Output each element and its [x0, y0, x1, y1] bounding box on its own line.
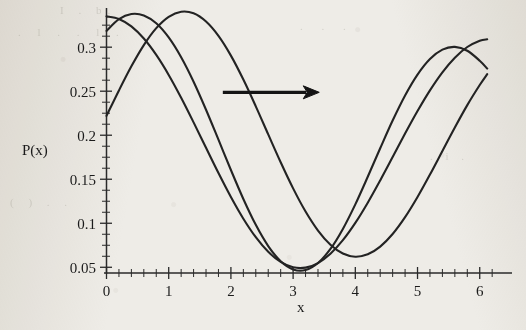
x-tick-label: 6	[476, 283, 484, 299]
y-tick-label: 0.2	[77, 128, 96, 144]
y-tick-label: 0.1	[77, 216, 96, 232]
curve-2	[107, 14, 488, 271]
x-tick-label: 2	[227, 283, 235, 299]
x-tick-label: 3	[289, 283, 297, 299]
rightward-shift-arrow	[223, 86, 319, 99]
figure-panel: I . b. . l . . l . . . . ( ) . . . i . 0…	[0, 0, 526, 330]
x-tick-label: 0	[103, 283, 111, 299]
x-axis-tick-labels: 0123456	[103, 283, 484, 299]
y-axis-tick-labels: 0.050.10.150.20.250.3	[70, 40, 96, 276]
y-tick-label: 0.15	[70, 172, 96, 188]
x-axis-title: x	[297, 299, 305, 315]
curve-1	[107, 16, 488, 268]
y-axis-title: P(x)	[22, 142, 48, 159]
y-tick-label: 0.25	[70, 84, 96, 100]
x-tick-label: 1	[165, 283, 173, 299]
x-tick-label: 4	[352, 283, 360, 299]
curve-3	[107, 11, 488, 256]
data-curves	[107, 11, 488, 270]
x-tick-label: 5	[414, 283, 422, 299]
chart-svg: 0.050.10.150.20.250.3 0123456 P(x) x	[0, 0, 526, 330]
y-tick-label: 0.3	[77, 40, 96, 56]
y-tick-label: 0.05	[70, 260, 96, 276]
